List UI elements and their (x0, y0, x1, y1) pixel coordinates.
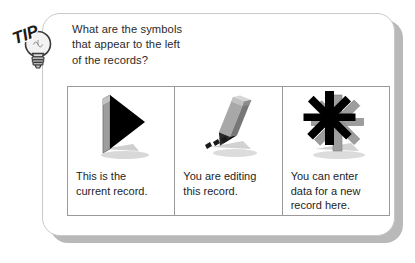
legend-caption-current-record: This is the current record. (68, 169, 174, 198)
caption-line: You can enter (291, 169, 381, 184)
asterisk-icon (299, 91, 373, 165)
legend-panel-current-record: This is the current record. (68, 87, 174, 215)
question-line-1: What are the symbols (72, 22, 302, 37)
caption-line: this record. (183, 184, 273, 199)
pencil-icon (193, 91, 263, 165)
legend-panel-editing-record: You are editing this record. (174, 87, 281, 215)
question-line-3: of the records? (72, 53, 302, 68)
question-line-2: that appear to the left (72, 37, 302, 52)
caption-line: current record. (76, 184, 166, 199)
triangle-right-icon (89, 91, 153, 165)
lightbulb-icon: TIP (8, 14, 64, 76)
legend-art-current-record (68, 87, 174, 169)
legend-caption-new-record: You can enter data for a new record here… (283, 169, 389, 213)
question-text: What are the symbols that appear to the … (72, 22, 302, 68)
caption-line: This is the (76, 169, 166, 184)
tip-badge: TIP (8, 14, 64, 76)
caption-line: record here. (291, 198, 381, 213)
legend-art-new-record (283, 87, 389, 169)
symbol-legend-box: This is the current record. (67, 86, 390, 216)
legend-caption-editing-record: You are editing this record. (175, 169, 281, 198)
caption-line: data for a new (291, 184, 381, 199)
legend-art-editing-record (175, 87, 281, 169)
caption-line: You are editing (183, 169, 273, 184)
legend-panel-new-record: You can enter data for a new record here… (282, 87, 389, 215)
